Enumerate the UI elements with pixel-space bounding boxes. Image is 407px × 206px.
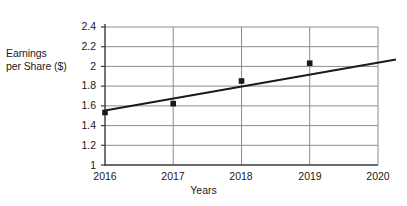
x-tick-label-2016: 2016 xyxy=(82,171,128,182)
data-points xyxy=(102,60,312,115)
y-tick-label-1.8: 1.8 xyxy=(70,80,96,91)
data-point-2016 xyxy=(102,110,108,116)
data-point-2018 xyxy=(239,78,245,84)
x-tick-label-2020: 2020 xyxy=(355,171,401,182)
trend-line xyxy=(105,60,396,111)
x-axis-title: Years xyxy=(0,184,407,197)
y-tick-label-2.4: 2.4 xyxy=(70,21,96,32)
y-tick-label-2: 2 xyxy=(70,61,96,72)
earnings-per-share-chart: Earnings per Share ($) xyxy=(0,0,407,206)
y-tick-label-1.2: 1.2 xyxy=(70,140,96,151)
y-tick-label-1.4: 1.4 xyxy=(70,120,96,131)
data-point-2019 xyxy=(307,60,313,66)
x-tick-label-2019: 2019 xyxy=(287,171,333,182)
x-tick-label-2017: 2017 xyxy=(150,171,196,182)
x-tick-label-2018: 2018 xyxy=(218,171,264,182)
vertical-gridlines xyxy=(173,27,310,165)
y-tick-label-1: 1 xyxy=(70,160,96,171)
y-tick-label-2.2: 2.2 xyxy=(70,41,96,52)
plot-area xyxy=(0,0,407,206)
data-point-2017 xyxy=(170,101,176,107)
y-tick-label-1.6: 1.6 xyxy=(70,100,96,111)
